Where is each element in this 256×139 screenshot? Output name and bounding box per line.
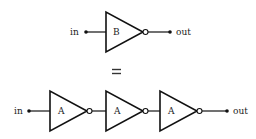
gate-a-3: A (160, 91, 202, 131)
bottom-input-label: in (14, 106, 23, 116)
inverter-triangle-icon (160, 91, 197, 131)
equals-sign (112, 70, 121, 74)
bottom-circuit: in A A A out (14, 91, 248, 131)
inverter-triangle-icon (106, 12, 143, 52)
inverter-triangle-icon (106, 91, 143, 131)
gate-a-3-label: A (167, 106, 175, 116)
gate-a-1-label: A (57, 106, 65, 116)
gate-a-1: A (50, 91, 92, 131)
inversion-bubble-icon (143, 109, 148, 114)
gate-a-2: A (106, 91, 148, 131)
top-circuit: in B out (70, 12, 191, 52)
bottom-output-label: out (233, 106, 248, 116)
inverter-equivalence-diagram: in B out in A A (0, 0, 256, 139)
inversion-bubble-icon (143, 30, 148, 35)
inversion-bubble-icon (197, 109, 202, 114)
inverter-triangle-icon (50, 91, 87, 131)
gate-b: B (106, 12, 148, 52)
inversion-bubble-icon (87, 109, 92, 114)
top-output-terminal (168, 30, 172, 34)
gate-a-2-label: A (113, 106, 121, 116)
top-input-label: in (70, 27, 79, 37)
bottom-output-terminal (225, 109, 229, 113)
gate-b-label: B (113, 27, 120, 37)
top-output-label: out (176, 27, 191, 37)
